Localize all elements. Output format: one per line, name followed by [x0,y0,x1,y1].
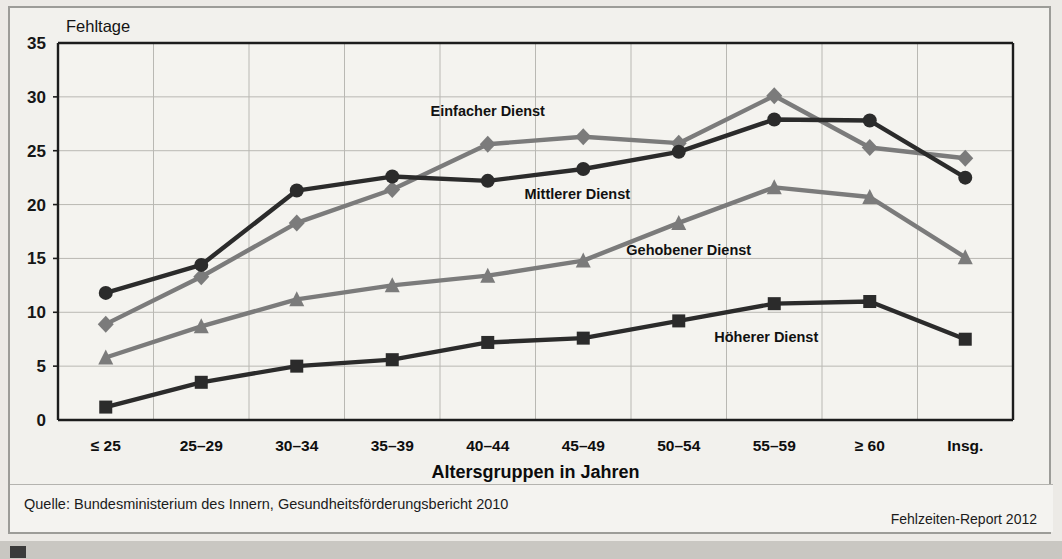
marker-circle [863,114,877,128]
data-point-square[interactable] [99,401,112,414]
x-axis-category-label: 25–29 [180,437,223,454]
series-annotation-label: Mittlerer Dienst [524,186,630,202]
series-annotation-label: Gehobener Dienst [626,242,751,258]
chart-plot-area: 05101520253035Fehltage≤ 2525–2930–3435–3… [10,8,1053,486]
data-point-square[interactable] [577,332,590,345]
marker-square [577,332,590,345]
y-axis-tick-label: 5 [37,357,46,376]
page-bottom-strip [0,541,1062,559]
scanned-page-background: 05101520253035Fehltage≤ 2525–2930–3435–3… [0,0,1062,559]
marker-square [481,336,494,349]
marker-square [863,295,876,308]
x-axis-category-label: 50–54 [657,437,700,454]
data-point-circle[interactable] [290,184,304,198]
data-point-circle[interactable] [863,114,877,128]
marker-circle [672,145,686,159]
marker-square [672,314,685,327]
data-point-square[interactable] [195,376,208,389]
y-axis-tick-label: 0 [37,411,46,430]
data-point-circle[interactable] [194,258,208,272]
marker-square [386,353,399,366]
y-axis-unit-label: Fehltage [66,17,130,35]
marker-square [768,297,781,310]
data-point-circle[interactable] [576,162,590,176]
y-axis-tick-label: 20 [27,196,46,215]
x-axis-category-label: ≤ 25 [91,437,121,454]
data-point-circle[interactable] [99,286,113,300]
bullet-marker-icon [10,546,26,558]
data-point-square[interactable] [481,336,494,349]
marker-circle [576,162,590,176]
line-chart-svg: 05101520253035Fehltage≤ 2525–2930–3435–3… [10,8,1053,486]
marker-circle [290,184,304,198]
data-point-square[interactable] [768,297,781,310]
marker-square [290,360,303,373]
x-axis-category-label: 40–44 [466,437,509,454]
y-axis-tick-label: 25 [27,142,46,161]
data-point-circle[interactable] [385,170,399,184]
marker-square [99,401,112,414]
y-axis-tick-label: 15 [27,249,46,268]
marker-circle [385,170,399,184]
figure-footer: Quelle: Bundesministerium des Innern, Ge… [10,484,1053,532]
data-point-square[interactable] [959,333,972,346]
marker-circle [481,174,495,188]
figure-card: 05101520253035Fehltage≤ 2525–2930–3435–3… [8,6,1051,534]
report-caption: Fehlzeiten-Report 2012 [891,511,1037,527]
x-axis-category-label: ≥ 60 [855,437,885,454]
marker-circle [767,112,781,126]
x-axis-category-label: 30–34 [275,437,318,454]
marker-circle [99,286,113,300]
x-axis-category-label: 45–49 [562,437,605,454]
data-point-circle[interactable] [672,145,686,159]
data-point-square[interactable] [863,295,876,308]
marker-circle [958,171,972,185]
data-point-circle[interactable] [767,112,781,126]
data-point-square[interactable] [672,314,685,327]
y-axis-tick-label: 10 [27,303,46,322]
marker-square [195,376,208,389]
y-axis-tick-label: 35 [27,34,46,53]
data-point-square[interactable] [290,360,303,373]
source-caption: Quelle: Bundesministerium des Innern, Ge… [24,496,508,512]
x-axis-category-label: Insg. [947,437,983,454]
y-axis-tick-label: 30 [27,88,46,107]
x-axis-title: Altersgruppen in Jahren [431,462,639,482]
series-annotation-label: Einfacher Dienst [431,103,546,119]
data-point-circle[interactable] [481,174,495,188]
marker-square [959,333,972,346]
x-axis-category-label: 35–39 [371,437,414,454]
marker-circle [194,258,208,272]
data-point-square[interactable] [386,353,399,366]
data-point-circle[interactable] [958,171,972,185]
x-axis-category-label: 55–59 [753,437,796,454]
series-annotation-label: Höherer Dienst [714,329,818,345]
